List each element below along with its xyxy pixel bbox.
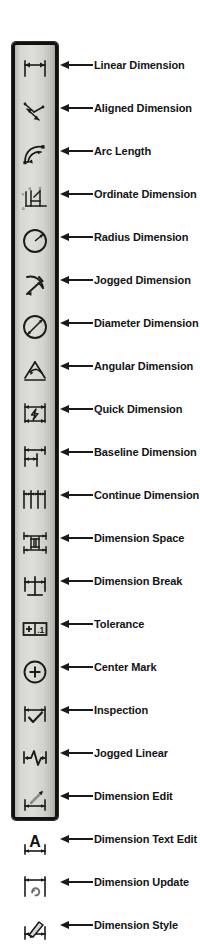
callout-ordinate-dimension: Ordinate Dimension bbox=[60, 186, 197, 202]
callout-jogged-linear: Jogged Linear bbox=[60, 745, 168, 761]
toolbar-button-dimension-space[interactable] bbox=[15, 521, 55, 564]
svg-text:A: A bbox=[29, 833, 41, 850]
svg-text:0: 0 bbox=[29, 185, 32, 190]
callout-label: Radius Dimension bbox=[94, 231, 188, 243]
callout-label: Jogged Dimension bbox=[94, 274, 191, 286]
dimension-toolbar[interactable]: 0 X Y 0 bbox=[12, 42, 58, 820]
svg-text:X: X bbox=[38, 185, 41, 190]
inspection-icon bbox=[18, 698, 52, 732]
callout-dimension-update: Dimension Update bbox=[60, 874, 189, 890]
dimension-update-icon bbox=[18, 870, 52, 904]
callout-inspection: Inspection bbox=[60, 702, 148, 718]
callout-dimension-space: Dimension Space bbox=[60, 530, 184, 546]
arrow-left-icon bbox=[60, 405, 93, 414]
arrow-left-icon bbox=[60, 448, 93, 457]
callout-label: Quick Dimension bbox=[94, 403, 182, 415]
callout-label: Jogged Linear bbox=[94, 747, 168, 759]
callout-linear-dimension: Linear Dimension bbox=[60, 57, 185, 73]
callout-label: Dimension Update bbox=[94, 876, 189, 888]
arrow-left-icon bbox=[60, 749, 93, 758]
toolbar-button-aligned-dimension[interactable] bbox=[15, 90, 55, 133]
arrow-left-icon bbox=[60, 362, 93, 371]
callout-label: Arc Length bbox=[94, 145, 151, 157]
dimension-edit-icon bbox=[18, 784, 52, 818]
callout-label: Diameter Dimension bbox=[94, 317, 199, 329]
toolbar-button-dimension-text-edit[interactable]: A bbox=[15, 823, 55, 866]
baseline-dimension-icon bbox=[18, 439, 52, 473]
toolbar-button-linear-dimension[interactable] bbox=[15, 47, 55, 90]
arrow-left-icon bbox=[60, 491, 93, 500]
callout-dimension-text-edit: Dimension Text Edit bbox=[60, 831, 197, 847]
arrow-left-icon bbox=[60, 233, 93, 242]
toolbar-button-dimension-update[interactable] bbox=[15, 866, 55, 909]
toolbar-button-jogged-linear[interactable] bbox=[15, 737, 55, 780]
toolbar-button-tolerance[interactable]: .1 bbox=[15, 607, 55, 650]
callout-label: Aligned Dimension bbox=[94, 102, 192, 114]
toolbar-button-arc-length[interactable] bbox=[15, 133, 55, 176]
tolerance-icon: .1 bbox=[18, 612, 52, 646]
arrow-left-icon bbox=[60, 276, 93, 285]
center-mark-icon bbox=[18, 655, 52, 689]
callout-dimension-break: Dimension Break bbox=[60, 573, 182, 589]
callout-label: Center Mark bbox=[94, 661, 156, 673]
continue-dimension-icon bbox=[18, 482, 52, 516]
toolbar-button-diameter-dimension[interactable] bbox=[15, 306, 55, 349]
arrow-left-icon bbox=[60, 921, 93, 930]
arrow-left-icon bbox=[60, 104, 93, 113]
toolbar-button-dimension-break[interactable] bbox=[15, 564, 55, 607]
arrow-left-icon bbox=[60, 534, 93, 543]
callout-label: Dimension Style bbox=[94, 919, 178, 931]
arrow-left-icon bbox=[60, 577, 93, 586]
arrow-left-icon bbox=[60, 620, 93, 629]
callout-quick-dimension: Quick Dimension bbox=[60, 401, 182, 417]
toolbar-button-baseline-dimension[interactable] bbox=[15, 435, 55, 478]
toolbar-button-dimension-style[interactable] bbox=[15, 909, 55, 944]
jogged-dimension-icon bbox=[18, 267, 52, 301]
toolbar-button-continue-dimension[interactable] bbox=[15, 478, 55, 521]
toolbar-button-quick-dimension[interactable] bbox=[15, 392, 55, 435]
arrow-left-icon bbox=[60, 706, 93, 715]
callout-label: Dimension Text Edit bbox=[94, 833, 197, 845]
callout-baseline-dimension: Baseline Dimension bbox=[60, 444, 197, 460]
dimension-space-icon bbox=[18, 526, 52, 560]
callout-label: Inspection bbox=[94, 704, 148, 716]
arrow-left-icon bbox=[60, 61, 93, 70]
callout-label: Dimension Edit bbox=[94, 790, 173, 802]
dimension-text-edit-icon: A bbox=[18, 827, 52, 861]
callout-aligned-dimension: Aligned Dimension bbox=[60, 100, 192, 116]
linear-dimension-icon bbox=[18, 52, 52, 86]
callout-arc-length: Arc Length bbox=[60, 143, 151, 159]
toolbar-button-radius-dimension[interactable] bbox=[15, 219, 55, 262]
callout-label: Dimension Break bbox=[94, 575, 182, 587]
dimension-break-icon bbox=[18, 569, 52, 603]
toolbar-button-inspection[interactable] bbox=[15, 693, 55, 736]
callout-angular-dimension: Angular Dimension bbox=[60, 358, 193, 374]
svg-text:.1: .1 bbox=[37, 625, 44, 635]
angular-dimension-icon bbox=[18, 353, 52, 387]
toolbar-button-dimension-edit[interactable] bbox=[15, 780, 55, 823]
callout-dimension-edit: Dimension Edit bbox=[60, 788, 173, 804]
arrow-left-icon bbox=[60, 878, 93, 887]
toolbar-button-center-mark[interactable] bbox=[15, 650, 55, 693]
arrow-left-icon bbox=[60, 663, 93, 672]
callout-label: Dimension Space bbox=[94, 532, 184, 544]
callout-dimension-style: Dimension Style bbox=[60, 917, 178, 933]
toolbar-button-jogged-dimension[interactable] bbox=[15, 262, 55, 305]
toolbar-button-ordinate-dimension[interactable]: 0 X Y 0 bbox=[15, 176, 55, 219]
jogged-linear-icon bbox=[18, 741, 52, 775]
arc-length-icon bbox=[18, 138, 52, 172]
arrow-left-icon bbox=[60, 835, 93, 844]
callout-diameter-dimension: Diameter Dimension bbox=[60, 315, 199, 331]
callout-label: Linear Dimension bbox=[94, 59, 185, 71]
callout-center-mark: Center Mark bbox=[60, 659, 156, 675]
quick-dimension-icon bbox=[18, 396, 52, 430]
callout-label: Continue Dimension bbox=[94, 489, 199, 501]
toolbar-button-angular-dimension[interactable] bbox=[15, 349, 55, 392]
arrow-left-icon bbox=[60, 190, 93, 199]
callout-label: Ordinate Dimension bbox=[94, 188, 197, 200]
diameter-dimension-icon bbox=[18, 310, 52, 344]
svg-text:0: 0 bbox=[22, 205, 25, 210]
callout-continue-dimension: Continue Dimension bbox=[60, 487, 199, 503]
callout-label: Angular Dimension bbox=[94, 360, 193, 372]
